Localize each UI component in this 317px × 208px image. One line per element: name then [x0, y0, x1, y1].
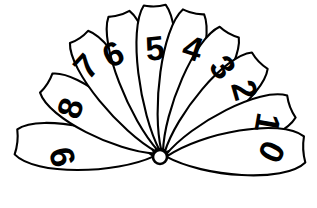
number-fan-figure: 9876543210 — [0, 0, 317, 208]
petal-5-digit: 5 — [144, 28, 167, 68]
drawing-canvas: 9876543210 — [0, 0, 317, 208]
fan-hub-icon — [153, 150, 167, 164]
